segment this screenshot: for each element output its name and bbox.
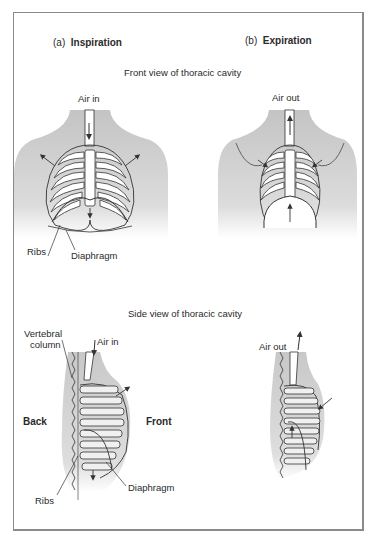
air-in-label-front: Air in <box>78 93 100 104</box>
panel-b-prefix: (b) <box>245 35 257 46</box>
ribs-label-front: Ribs <box>27 246 46 257</box>
front-inspiration-diagram <box>14 110 168 256</box>
panel-b-title: Expiration <box>263 35 312 46</box>
panel-b-heading: (b) Expiration <box>245 35 312 46</box>
panel-a-prefix: (a) <box>53 37 65 48</box>
vertebral-label-line2: column <box>30 339 61 350</box>
panel-a-title: Inspiration <box>71 37 122 48</box>
front-label: Front <box>146 416 172 427</box>
front-expiration-diagram <box>218 110 357 238</box>
side-view-title: Side view of thoracic cavity <box>128 308 242 319</box>
air-out-label-front: Air out <box>272 92 299 103</box>
front-view-title: Front view of thoracic cavity <box>124 67 241 78</box>
vertebral-label-line1: Vertebral <box>24 328 62 339</box>
panel-a-heading: (a) Inspiration <box>53 37 122 48</box>
side-inspiration-diagram <box>57 340 130 500</box>
air-in-label-side: Air in <box>97 336 119 347</box>
thoracic-illustrations <box>0 0 370 543</box>
back-label: Back <box>23 416 47 427</box>
diaphragm-label-front: Diaphragm <box>71 250 117 261</box>
side-expiration-diagram <box>270 334 332 480</box>
air-out-label-side: Air out <box>259 341 286 352</box>
ribs-label-side: Ribs <box>35 495 54 506</box>
diaphragm-label-side: Diaphragm <box>128 482 174 493</box>
